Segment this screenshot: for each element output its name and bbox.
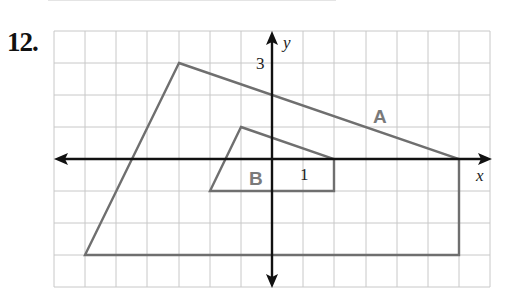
shape-b-label: B	[249, 168, 263, 189]
coordinate-graph: y x 3 1 A B	[0, 0, 509, 299]
x-axis-label: x	[475, 166, 484, 185]
y-axis-label: y	[281, 33, 291, 52]
y-tick-label-3: 3	[256, 54, 265, 73]
shape-a-label: A	[373, 106, 387, 127]
x-tick-label-1: 1	[300, 165, 309, 184]
